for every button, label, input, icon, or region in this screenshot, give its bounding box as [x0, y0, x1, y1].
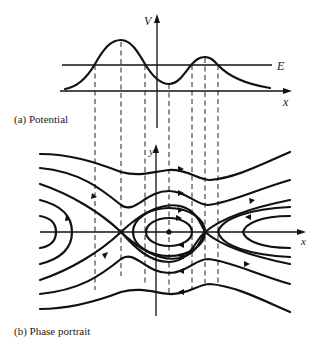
- flow-arrow-icon: [244, 261, 250, 267]
- separatrix-left-lower: [40, 205, 205, 280]
- v-axis-arrow-icon: [154, 14, 160, 23]
- energy-label: E: [276, 59, 285, 73]
- v-axis-label: V: [144, 14, 153, 28]
- y-axis-arrow-icon: [153, 144, 159, 153]
- potential-x-axis-label: x: [282, 95, 289, 109]
- phase-x-axis-label: x: [300, 235, 306, 247]
- potential-caption: (a) Potential: [14, 113, 68, 126]
- figure-canvas: V x E (a) Potential y x: [0, 0, 323, 349]
- phase-portrait-caption: (b) Phase portrait: [14, 325, 90, 338]
- potential-panel: V x E (a) Potential: [14, 14, 292, 128]
- y-axis-label: y: [148, 145, 154, 157]
- separatrix-left-upper: [40, 184, 205, 259]
- potential-x-axis-arrow-icon: [283, 88, 292, 94]
- trajectory-bottom-outer: [40, 284, 290, 312]
- flow-arrow-icon: [245, 214, 251, 220]
- flow-arrow-icon: [178, 268, 184, 274]
- flow-arrow-icon: [102, 252, 108, 259]
- flow-arrow-icon: [91, 193, 97, 199]
- phase-portrait-panel: y x: [14, 144, 306, 338]
- flow-arrow-icon: [249, 198, 255, 204]
- center-fixed-point: [166, 229, 171, 234]
